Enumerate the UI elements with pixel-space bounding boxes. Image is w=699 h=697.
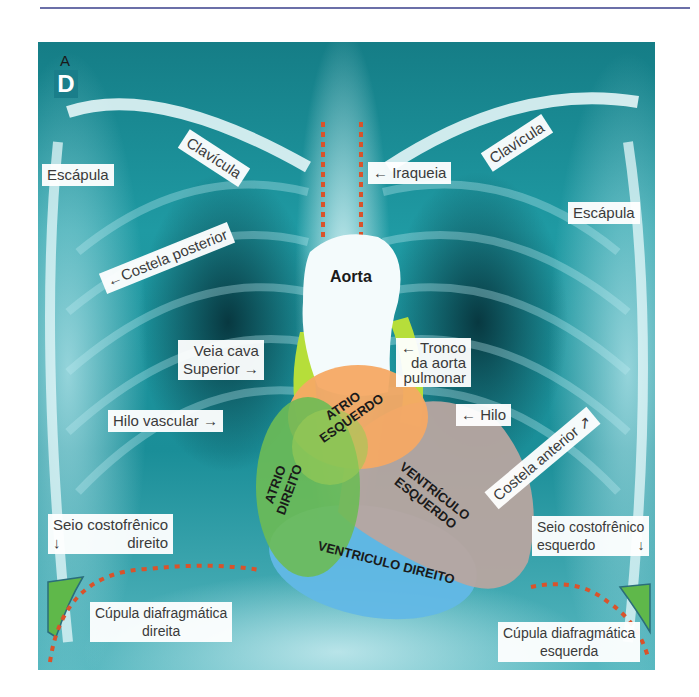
label-escapula-right: Escápula <box>42 164 114 186</box>
label-cupula-esquerda-line1: Cúpula diafragmática <box>503 624 635 642</box>
label-tronco-pulmonar: ← Tronco da aorta pulmonar <box>396 338 471 387</box>
label-escapula-left: Escápula <box>568 202 640 224</box>
label-seio-direito-line1: Seio costofrênico <box>53 516 168 534</box>
orientation-letter: A <box>60 52 70 69</box>
label-hilo: ← Hilo <box>456 404 511 426</box>
label-seio-esquerdo-line2: esquerdo <box>537 537 595 553</box>
scapula-edge-right <box>50 142 68 642</box>
down-arrow-icon: ↓ <box>637 536 644 554</box>
label-cupula-esquerda: Cúpula diafragmática esquerda <box>498 622 640 662</box>
heart-label-aorta: Aorta <box>330 269 372 284</box>
label-traqueia: ← Iraqueia <box>368 162 451 184</box>
label-veia-cava-line2: Superior → <box>183 360 259 378</box>
label-hilo-vascular: Hilo vascular → <box>108 410 223 432</box>
label-seio-direito: Seio costofrênico ↓ direito <box>48 514 173 554</box>
label-seio-direito-line2: direito <box>127 534 168 551</box>
label-tronco-line2: da aorta <box>401 355 466 370</box>
label-cupula-direita-line2: direita <box>95 622 227 640</box>
label-cupula-direita-line1: Cúpula diafragmática <box>95 604 227 622</box>
xray-structures <box>38 42 655 670</box>
orientation-badge: D <box>54 70 78 98</box>
label-cupula-direita: Cúpula diafragmática direita <box>90 602 232 642</box>
label-seio-esquerdo-row2: esquerdo ↓ <box>537 536 644 554</box>
chest-xray-figure: A D Escápula Clavícula ← Iraqueia Clavíc… <box>38 42 655 670</box>
label-cupula-esquerda-line2: esquerda <box>503 642 635 660</box>
label-seio-esquerdo: Seio costofrênico esquerdo ↓ <box>532 516 649 556</box>
label-seio-direito-row2: ↓ direito <box>53 534 168 552</box>
top-rule <box>40 7 690 9</box>
label-veia-cava: Veia cava Superior → <box>178 340 264 380</box>
label-tronco-line1: ← Tronco <box>401 340 466 355</box>
label-seio-esquerdo-line1: Seio costofrênico <box>537 518 644 536</box>
label-veia-cava-line1: Veia cava <box>183 342 259 360</box>
down-arrow-icon: ↓ <box>53 534 61 552</box>
label-tronco-line3: pulmonar <box>401 370 466 385</box>
